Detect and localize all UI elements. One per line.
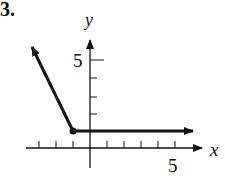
- x-ticks: [39, 141, 175, 148]
- x-tick-label-5: 5: [168, 155, 178, 176]
- graph: y 5 x 5: [0, 0, 225, 182]
- vertex-point: [70, 128, 77, 135]
- x-axis-label: x: [209, 139, 219, 160]
- y-tick-label-5: 5: [73, 50, 83, 71]
- y-axis-label: y: [83, 10, 93, 30]
- y-ticks: [90, 60, 104, 131]
- left-ray: [32, 47, 73, 131]
